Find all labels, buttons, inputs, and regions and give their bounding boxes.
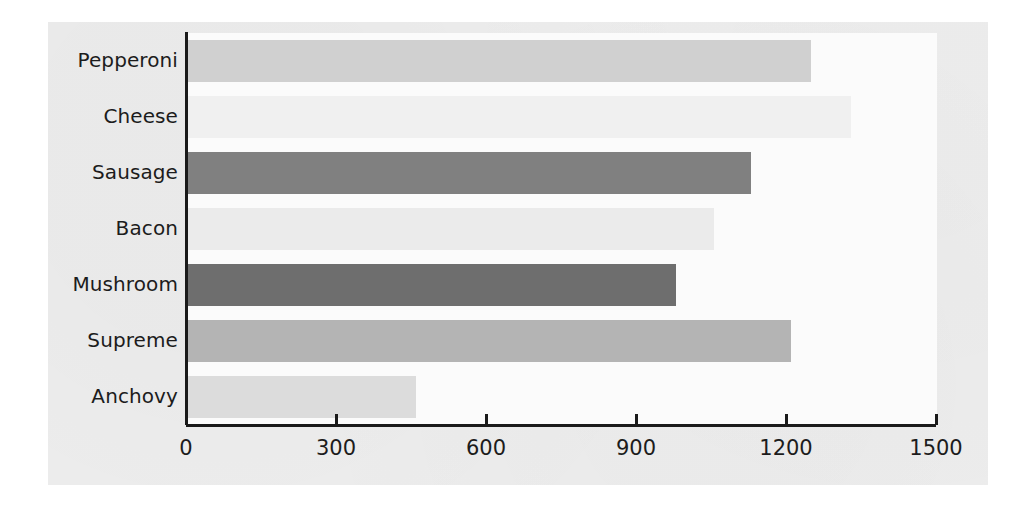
axis-lines	[0, 0, 1018, 507]
value-axis-label-300: 300	[316, 436, 356, 460]
value-axis-label-1200: 1200	[759, 436, 812, 460]
value-axis-label-900: 900	[616, 436, 656, 460]
value-axis-label-0: 0	[179, 436, 192, 460]
value-axis-labels: 030060090012001500	[0, 436, 1018, 470]
chart-page: PepperoniCheeseSausageBaconMushroomSupre…	[0, 0, 1018, 507]
horizontal-bar-chart: PepperoniCheeseSausageBaconMushroomSupre…	[0, 0, 1018, 507]
value-axis-label-1500: 1500	[909, 436, 962, 460]
value-axis-label-600: 600	[466, 436, 506, 460]
